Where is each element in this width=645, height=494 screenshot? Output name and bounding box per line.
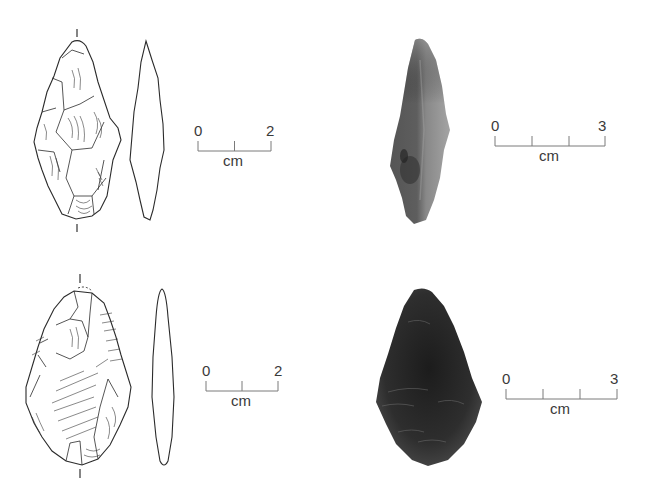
scale-bar-3-svg: 0 2 cm — [198, 358, 293, 410]
scale-end-label: 2 — [266, 122, 274, 139]
scale-bar-4: 0 3 cm — [498, 366, 623, 418]
scale-unit-label: cm — [231, 392, 251, 409]
face-outline — [34, 41, 121, 219]
scale-unit-label: cm — [550, 400, 570, 417]
artifact-1-photo-svg — [380, 30, 480, 230]
face-outline — [26, 291, 131, 465]
artifact-2-photo — [368, 282, 488, 472]
profile-outline — [152, 289, 174, 465]
missing-tip-dashed — [78, 287, 92, 291]
scale-bar-3: 0 2 cm — [198, 358, 293, 410]
photo-silhouette — [376, 288, 482, 466]
scale-end-label: 3 — [610, 370, 618, 387]
profile-outline — [130, 41, 164, 220]
artifact-1-photo — [380, 30, 480, 230]
scale-bar-2-svg: 0 3 cm — [487, 113, 612, 165]
scale-end-label: 3 — [598, 117, 606, 134]
scale-start-label: 0 — [202, 362, 210, 379]
scale-bar-1-svg: 0 2 cm — [190, 118, 285, 170]
scale-start-label: 0 — [491, 117, 499, 134]
scale-unit-label: cm — [223, 152, 243, 169]
scale-start-label: 0 — [194, 122, 202, 139]
scale-start-label: 0 — [502, 370, 510, 387]
scale-end-label: 2 — [274, 362, 282, 379]
artifact-2-photo-svg — [368, 282, 488, 472]
scale-bar-2: 0 3 cm — [487, 113, 612, 165]
ripple-hatching — [32, 313, 122, 457]
scale-bar-4-svg: 0 3 cm — [498, 366, 623, 418]
scale-bar-1: 0 2 cm — [190, 118, 285, 170]
scale-unit-label: cm — [539, 147, 559, 164]
ripple-hatching — [44, 68, 103, 214]
